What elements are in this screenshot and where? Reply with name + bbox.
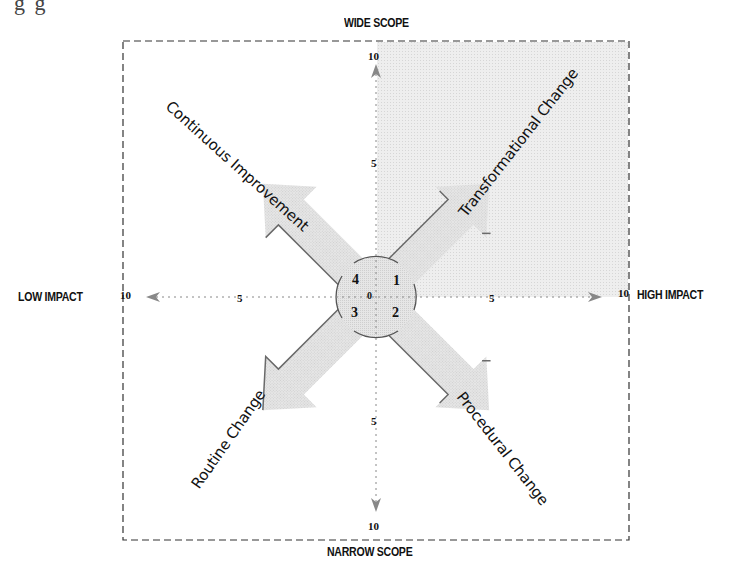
tick-top-10: 10 <box>368 50 379 62</box>
tick-bottom-10: 10 <box>368 520 379 532</box>
tick-right-10: 10 <box>618 287 629 299</box>
axis-label-narrow-scope: NARROW SCOPE <box>327 545 412 559</box>
tick-origin: 0 <box>367 290 372 301</box>
tick-left-10: 10 <box>120 289 131 301</box>
axis-label-wide-scope: WIDE SCOPE <box>344 16 409 30</box>
quadrant-number-3: 3 <box>351 305 358 321</box>
tick-right-5: 5 <box>489 292 495 304</box>
tick-top-5: 5 <box>371 157 377 169</box>
axis-label-low-impact: LOW IMPACT <box>18 290 83 304</box>
quadrant-number-1: 1 <box>393 273 400 289</box>
quadrant-number-2: 2 <box>392 305 399 321</box>
tick-left-5: 5 <box>237 292 243 304</box>
quadrant-number-4: 4 <box>352 272 359 288</box>
change-matrix-diagram: g g <box>0 0 734 574</box>
axis-label-high-impact: HIGH IMPACT <box>637 288 703 302</box>
tick-bottom-5: 5 <box>371 415 377 427</box>
